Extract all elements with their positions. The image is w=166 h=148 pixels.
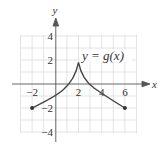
y-axis-label: y: [52, 4, 58, 16]
y-tick-label: −2: [41, 102, 53, 114]
curve-label: y = g(x): [80, 48, 124, 63]
x-tick-label: 2: [76, 86, 82, 98]
axes: [12, 18, 150, 142]
x-axis-label: x: [151, 78, 157, 90]
x-tick-label: −2: [26, 86, 38, 98]
endpoint-left: [30, 106, 34, 110]
y-axis-arrow-icon: [53, 18, 59, 26]
graph-of-g: x y −2 2 4 6 4 2 −2 −4 y = g(x): [0, 0, 166, 148]
x-axis-arrow-icon: [142, 81, 150, 87]
endpoint-right: [123, 106, 127, 110]
y-tick-label: 4: [48, 30, 54, 42]
y-tick-label: 2: [48, 54, 54, 66]
x-tick-label: 6: [122, 86, 128, 98]
y-tick-label: −4: [41, 126, 53, 138]
